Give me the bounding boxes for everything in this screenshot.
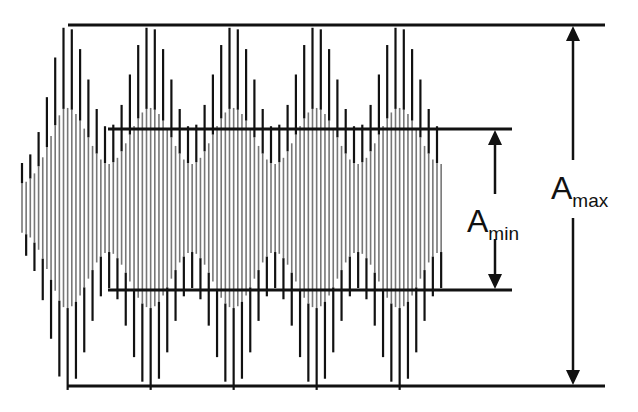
beat-waveform-diagram: Amax Amin	[0, 0, 638, 412]
amin-label-main: A	[467, 203, 488, 239]
amin-arrowhead-up-icon	[488, 130, 502, 145]
modulated-waveform	[22, 28, 441, 390]
reference-lines	[68, 25, 605, 386]
amax-label-subscript: max	[572, 190, 608, 211]
waveform-canvas	[0, 0, 638, 412]
amax-arrowhead-down-icon	[566, 370, 580, 385]
amax-arrowhead-up-icon	[566, 26, 580, 41]
amax-label-main: A	[551, 170, 572, 206]
amin-arrowhead-down-icon	[488, 274, 502, 289]
amax-label: Amax	[551, 170, 608, 206]
amin-label-subscript: min	[488, 223, 519, 244]
amin-label: Amin	[467, 203, 519, 239]
